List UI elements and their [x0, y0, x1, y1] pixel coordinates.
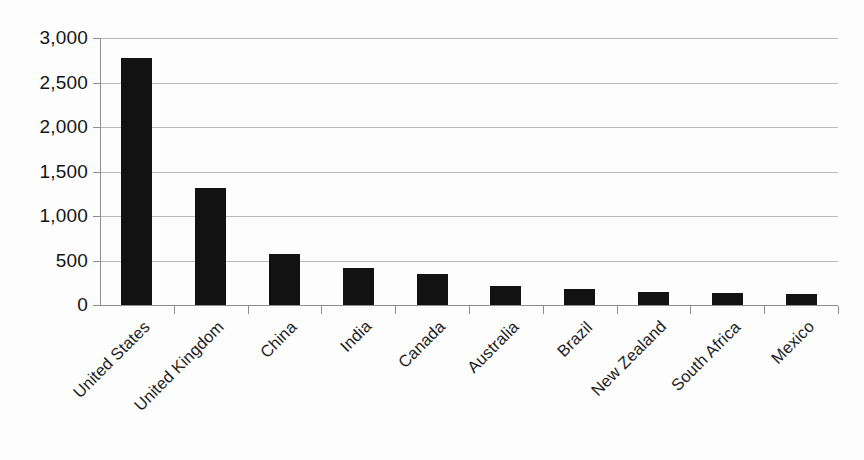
x-tick-mark: [617, 306, 618, 314]
y-tick-label: 2,000: [4, 117, 88, 136]
y-tick-label: 1,500: [4, 162, 88, 181]
gridline: [100, 38, 838, 39]
gridline: [100, 172, 838, 173]
x-tick-label: Brazil: [554, 318, 596, 360]
bar[interactable]: [195, 188, 226, 305]
x-tick-label: South Africa: [668, 318, 744, 394]
bar[interactable]: [638, 292, 669, 305]
x-tick-label: New Zealand: [588, 318, 670, 400]
x-tick-label: Mexico: [768, 318, 817, 367]
x-tick-mark: [543, 306, 544, 314]
x-tick-label: China: [257, 318, 300, 361]
y-tick-mark: [93, 127, 100, 128]
bar[interactable]: [343, 268, 374, 305]
x-tick-mark: [321, 306, 322, 314]
x-tick-mark: [395, 306, 396, 314]
y-axis-line: [100, 38, 101, 306]
x-tick-mark: [469, 306, 470, 314]
y-tick-mark: [93, 83, 100, 84]
x-tick-mark: [248, 306, 249, 314]
y-tick-mark: [93, 172, 100, 173]
bar[interactable]: [564, 289, 595, 305]
bar[interactable]: [121, 58, 152, 305]
x-tick-mark: [838, 306, 839, 314]
y-tick-label: 0: [4, 295, 88, 314]
y-tick-mark: [93, 38, 100, 39]
bar[interactable]: [490, 286, 521, 305]
x-tick-mark: [174, 306, 175, 314]
bar[interactable]: [269, 254, 300, 305]
y-tick-label: 500: [4, 251, 88, 270]
x-tick-mark: [690, 306, 691, 314]
bar-chart: 05001,0001,5002,0002,5003,000 United Sta…: [0, 0, 864, 460]
x-tick-label: Australia: [464, 318, 522, 376]
y-tick-label: 3,000: [4, 28, 88, 47]
bar[interactable]: [786, 294, 817, 305]
y-tick-label: 1,000: [4, 206, 88, 225]
gridline: [100, 127, 838, 128]
gridline: [100, 83, 838, 84]
y-tick-label: 2,500: [4, 73, 88, 92]
y-tick-mark: [93, 261, 100, 262]
plot-area: [100, 38, 838, 305]
bar[interactable]: [712, 293, 743, 305]
x-tick-label: India: [337, 318, 375, 356]
x-tick-mark: [764, 306, 765, 314]
y-tick-mark: [93, 305, 100, 306]
bar[interactable]: [417, 274, 448, 305]
x-tick-label: Canada: [395, 318, 448, 371]
y-tick-mark: [93, 216, 100, 217]
